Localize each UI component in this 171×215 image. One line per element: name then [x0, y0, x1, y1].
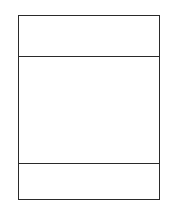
three-section-box	[18, 15, 160, 200]
box-section-top	[19, 16, 159, 56]
box-section-middle	[19, 56, 159, 163]
box-section-bottom	[19, 163, 159, 199]
diagram-canvas	[0, 0, 171, 215]
